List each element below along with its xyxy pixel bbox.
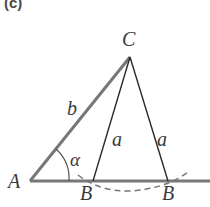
side-label-a-right: a (157, 128, 167, 150)
vertex-label-b2: B (162, 182, 174, 204)
side-b (30, 57, 130, 181)
vertex-label-c: C (122, 28, 136, 50)
angle-label-alpha: α (70, 149, 81, 170)
ambiguous-case-triangle-diagram: (c) C A B B b a a α (0, 0, 210, 207)
vertex-label-a: A (6, 170, 21, 192)
angle-alpha-arc (56, 149, 69, 181)
side-a-right (130, 57, 168, 181)
side-label-b: b (67, 97, 77, 119)
side-a-left (93, 57, 130, 181)
vertex-label-b1: B (80, 182, 92, 204)
side-label-a-left: a (112, 128, 122, 150)
triangle-figure: C A B B b a a α (0, 0, 210, 207)
